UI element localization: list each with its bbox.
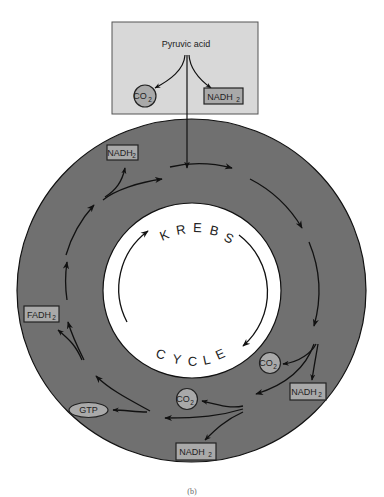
svg-text:2: 2 <box>236 96 240 103</box>
top-co2-circle: CO 2 <box>133 85 156 107</box>
svg-text:CO: CO <box>259 358 273 368</box>
svg-text:FADH: FADH <box>27 310 51 320</box>
svg-text:Y: Y <box>172 351 186 367</box>
svg-text:2: 2 <box>318 391 322 398</box>
svg-text:C: C <box>188 354 201 369</box>
svg-text:2: 2 <box>190 399 194 406</box>
nadh2-right-box: NADH 2 <box>290 383 326 400</box>
pyruvic-acid-label: Pyruvic acid <box>162 39 211 49</box>
svg-text:E: E <box>193 220 205 235</box>
svg-text:GTP: GTP <box>79 405 98 415</box>
pyruvic-acid-box: Pyruvic acid CO 2 NADH 2 <box>112 22 258 114</box>
top-nadh2-box: NADH 2 <box>204 88 243 104</box>
co2-lower-middle-circle: CO 2 <box>176 389 197 410</box>
nadh2-bottom-box: NADH 2 <box>176 443 216 460</box>
svg-text:2: 2 <box>273 363 277 370</box>
svg-text:2: 2 <box>148 96 152 103</box>
co2-right-circle: CO 2 <box>259 353 280 374</box>
svg-text:NADH: NADH <box>291 387 317 397</box>
svg-text:R: R <box>175 221 190 238</box>
svg-text:2: 2 <box>52 314 56 321</box>
svg-text:NADH: NADH <box>107 148 133 158</box>
svg-text:2: 2 <box>208 451 212 458</box>
figure-caption: (b) <box>187 487 197 496</box>
svg-text:2: 2 <box>132 152 136 159</box>
gtp-ellipse: GTP <box>69 403 108 418</box>
krebs-cycle-diagram: Pyruvic acid CO 2 NADH 2 <box>0 0 384 497</box>
svg-text:CO: CO <box>176 394 190 404</box>
svg-text:NADH: NADH <box>179 447 205 457</box>
svg-text:NADH: NADH <box>207 92 233 102</box>
svg-text:CO: CO <box>133 91 147 101</box>
nadh2-upper-left-box: NADH 2 <box>107 145 138 160</box>
fadh2-box: FADH 2 <box>24 306 59 322</box>
